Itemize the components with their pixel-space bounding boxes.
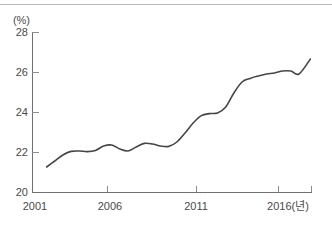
- x-tick-label-2001: 2001: [23, 200, 47, 212]
- y-tick-label-28: 28: [16, 26, 28, 38]
- x-tick-label-2016: 2016(년): [267, 200, 309, 212]
- x-tick-label-2006: 2006: [98, 200, 122, 212]
- y-tick-label-24: 24: [16, 106, 28, 118]
- y-tick-label-26: 26: [16, 66, 28, 78]
- line-chart-plot: (%) 28 26 24 22 20 2001 2006 2011 2016(년…: [0, 0, 332, 230]
- data-series-line: [47, 59, 311, 167]
- x-tick-label-2011: 2011: [184, 200, 208, 212]
- chart-figure: (%) 28 26 24 22 20 2001 2006 2011 2016(년…: [0, 0, 332, 230]
- y-axis-unit-label: (%): [13, 14, 30, 26]
- y-tick-label-20: 20: [16, 186, 28, 198]
- y-tick-label-22: 22: [16, 146, 28, 158]
